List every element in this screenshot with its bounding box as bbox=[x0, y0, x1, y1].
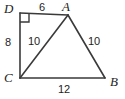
side-length-label-DA: 6 bbox=[39, 2, 45, 13]
segment-DA bbox=[20, 13, 68, 15]
side-length-label-AB: 10 bbox=[88, 36, 100, 47]
side-length-label-DC: 8 bbox=[5, 37, 11, 48]
vertex-label-C: C bbox=[4, 71, 13, 84]
vertex-label-D: D bbox=[4, 2, 13, 15]
side-length-label-CA: 10 bbox=[28, 36, 40, 47]
right-angle-marker-icon bbox=[20, 13, 29, 22]
side-length-label-CB: 12 bbox=[58, 84, 70, 95]
vertex-label-A: A bbox=[62, 0, 70, 13]
vertex-label-B: B bbox=[110, 75, 118, 88]
geometry-diagram: D A B C 6 8 10 10 12 bbox=[0, 0, 125, 99]
